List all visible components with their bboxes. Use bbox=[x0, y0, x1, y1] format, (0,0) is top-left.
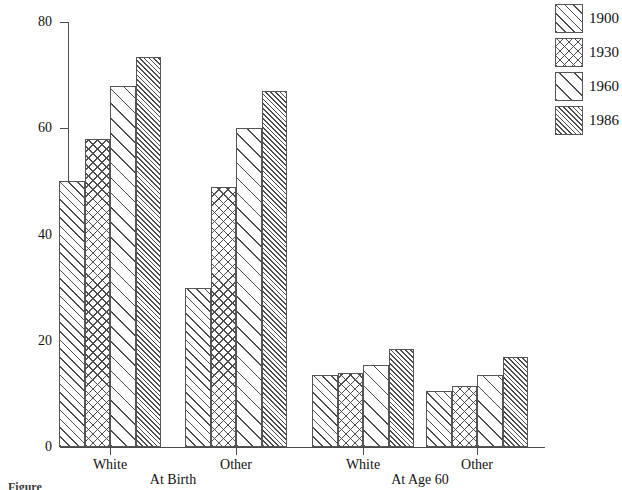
legend-item-1930[interactable]: 1930 bbox=[551, 36, 621, 70]
bar-1960-Other-1 bbox=[236, 128, 262, 447]
y-axis-tick bbox=[60, 447, 69, 448]
x-axis-tick bbox=[363, 447, 364, 455]
bar-1960-White-0 bbox=[110, 86, 136, 447]
legend-swatch-icon-1900 bbox=[555, 4, 583, 33]
bar-1900-White-2 bbox=[312, 375, 338, 447]
x-axis-tick bbox=[110, 447, 111, 455]
bar-1900-White-0 bbox=[59, 181, 85, 447]
bar-1960-Other-3 bbox=[477, 375, 503, 447]
legend-item-1900[interactable]: 1900 bbox=[551, 2, 621, 36]
bar-1930-White-2 bbox=[338, 373, 364, 447]
legend: 1900 1930 1960 1986 bbox=[551, 2, 621, 138]
x-axis-category-label: White bbox=[60, 457, 160, 472]
legend-item-1960[interactable]: 1960 bbox=[551, 70, 621, 104]
figure-caption: Figure bbox=[8, 481, 42, 490]
x-axis-tick bbox=[477, 447, 478, 455]
y-axis-tick-label: 20 bbox=[0, 334, 52, 348]
bar-1986-Other-3 bbox=[503, 357, 529, 447]
y-axis-tick-label: 40 bbox=[0, 228, 52, 242]
legend-swatch-icon-1986 bbox=[555, 106, 583, 135]
x-axis-tick bbox=[236, 447, 237, 455]
y-axis-tick-label: 0 bbox=[0, 440, 52, 454]
bars-layer bbox=[68, 22, 545, 447]
legend-label-1930: 1930 bbox=[589, 44, 619, 60]
legend-swatch-icon-1930 bbox=[555, 38, 583, 67]
bar-1986-White-0 bbox=[136, 57, 162, 447]
bar-1930-Other-3 bbox=[452, 386, 478, 447]
x-axis-category-label: Other bbox=[186, 457, 286, 472]
x-axis-line bbox=[68, 447, 545, 448]
y-axis-tick-label: 80 bbox=[0, 15, 52, 29]
bar-1986-Other-1 bbox=[262, 91, 288, 447]
x-axis-group-label: At Age 60 bbox=[360, 472, 480, 487]
y-axis-tick-label: 60 bbox=[0, 121, 52, 135]
legend-item-1986[interactable]: 1986 bbox=[551, 104, 621, 138]
legend-swatch-icon-1960 bbox=[555, 72, 583, 101]
x-axis-category-label: Other bbox=[427, 457, 527, 472]
legend-label-1960: 1960 bbox=[589, 78, 619, 94]
legend-label-1986: 1986 bbox=[589, 112, 619, 128]
bar-1900-Other-1 bbox=[185, 288, 211, 447]
bar-chart: 020406080 WhiteOtherWhiteOtherAt BirthAt… bbox=[0, 0, 622, 490]
bar-1960-White-2 bbox=[363, 365, 389, 447]
bar-1930-Other-1 bbox=[211, 187, 237, 447]
bar-1930-White-0 bbox=[85, 139, 111, 447]
bar-1900-Other-3 bbox=[426, 391, 452, 447]
x-axis-group-label: At Birth bbox=[113, 472, 233, 487]
bar-1986-White-2 bbox=[389, 349, 415, 447]
x-axis-category-label: White bbox=[313, 457, 413, 472]
legend-label-1900: 1900 bbox=[589, 10, 619, 26]
